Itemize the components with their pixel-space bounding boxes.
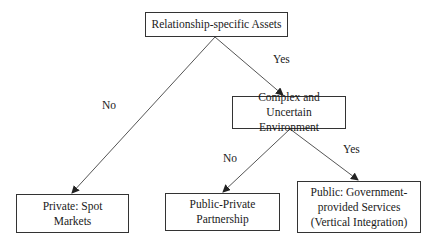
node-label: Relationship-specific Assets — [152, 17, 282, 32]
node-public-private-partnership: Public-Private Partnership — [165, 193, 280, 231]
node-public-government-services: Public: Government-provided Services (Ve… — [297, 181, 421, 233]
node-complex-uncertain-environment: Complex and Uncertain Environment — [232, 96, 346, 129]
node-label: Public: Government-provided Services (Ve… — [304, 185, 414, 230]
node-private-spot-markets: Private: Spot Markets — [16, 194, 129, 233]
edge-label-complex-no: No — [223, 152, 237, 165]
edge-root-to-private — [72, 37, 215, 193]
node-label: Complex and Uncertain Environment — [237, 90, 341, 135]
node-label: Private: Spot Markets — [39, 199, 106, 229]
edge-root-to-complex — [215, 37, 283, 95]
edge-label-complex-yes: Yes — [343, 143, 360, 156]
node-relationship-specific-assets: Relationship-specific Assets — [145, 12, 288, 37]
node-label: Public-Private Partnership — [188, 197, 257, 227]
edge-label-root-yes: Yes — [273, 53, 290, 66]
edge-label-root-no: No — [102, 99, 116, 112]
